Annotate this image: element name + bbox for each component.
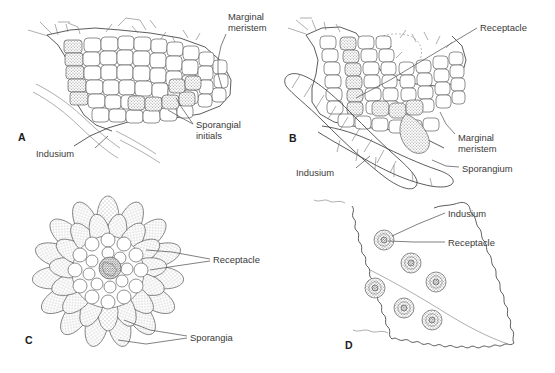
svg-text:meristem: meristem: [458, 143, 497, 154]
panel-c: C Receptacle Sporangia: [25, 196, 260, 349]
panel-a-letter: A: [18, 131, 26, 143]
label-marginal-meristem-b: Marginal meristem: [458, 132, 497, 154]
panel-d-sori: [365, 230, 446, 330]
svg-text:initials: initials: [196, 130, 222, 141]
receptacle-cells-b: [340, 37, 363, 115]
svg-text:meristem: meristem: [228, 22, 267, 33]
panel-a-cell-mosaic: [28, 18, 228, 163]
svg-text:Sporangial: Sporangial: [196, 119, 241, 130]
label-sporangial-initials-a: Sporangial initials: [196, 119, 241, 141]
label-indusium-b: Indusium: [296, 167, 334, 178]
sorus: [426, 272, 446, 292]
label-sporangia-c: Sporangia: [190, 332, 234, 343]
label-indusium-d: Indusium: [448, 208, 486, 219]
sorus: [365, 278, 385, 298]
label-receptacle-c: Receptacle: [213, 254, 260, 265]
label-receptacle-d: Receptacle: [448, 237, 495, 248]
sorus: [401, 253, 421, 273]
panel-d-leaders: [388, 213, 445, 242]
sorus: [394, 298, 414, 318]
svg-text:Marginal: Marginal: [228, 11, 264, 22]
panel-b: B Receptacle Marginal meristem Sporangiu…: [285, 18, 527, 189]
label-sporangium-b: Sporangium: [462, 163, 513, 174]
svg-text:Marginal: Marginal: [458, 132, 494, 143]
label-indusium-a: Indusium: [36, 148, 74, 159]
label-marginal-meristem-a: Marginal meristem: [228, 11, 267, 33]
label-receptacle-b: Receptacle: [480, 22, 527, 33]
sorus: [374, 230, 394, 250]
panel-d-letter: D: [345, 339, 353, 351]
panel-b-letter: B: [289, 132, 297, 144]
panel-a: A Marginal meristem Sporangial initials …: [18, 11, 267, 163]
panel-c-letter: C: [25, 334, 33, 346]
panel-d-leaf-outline: [314, 200, 514, 348]
panel-d: D Indusium Receptacle: [314, 200, 514, 351]
sorus: [422, 310, 442, 330]
figure-fern-sorus-development: A Marginal meristem Sporangial initials …: [0, 0, 555, 373]
